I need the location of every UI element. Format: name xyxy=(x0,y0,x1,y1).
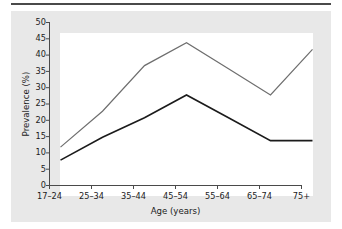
x-tick-label: 55–64 xyxy=(205,192,230,200)
x-tick-label: 35–44 xyxy=(121,192,146,200)
chart-figure: Prevalence (%) 05101520253035404550 17–2… xyxy=(0,0,342,229)
x-tick-label: 17–24 xyxy=(37,192,62,200)
x-tick-label: 65–74 xyxy=(247,192,272,200)
x-tick-label: 25–34 xyxy=(79,192,104,200)
x-axis-title: Age (years) xyxy=(49,206,302,216)
x-tick-labels: 17–2425–3435–4445–5455–6465–7475+ xyxy=(0,0,342,229)
x-tick-label: 75+ xyxy=(293,192,310,200)
x-tick-label: 45–54 xyxy=(163,192,188,200)
